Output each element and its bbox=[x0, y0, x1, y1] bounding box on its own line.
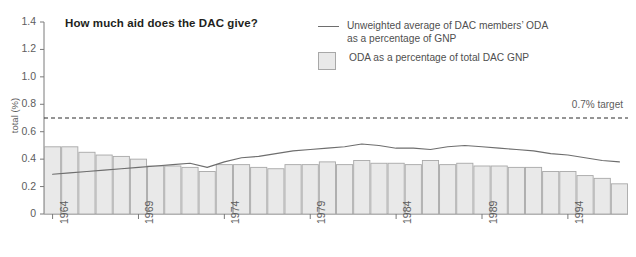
bar bbox=[440, 165, 456, 214]
bar bbox=[113, 156, 129, 214]
x-axis-tick-label: 1979 bbox=[315, 201, 327, 224]
y-axis-tick-label: 0.6 bbox=[8, 125, 36, 137]
bar bbox=[543, 171, 559, 214]
bar bbox=[337, 165, 353, 214]
bar bbox=[165, 166, 181, 214]
y-axis-tick-label: 0.2 bbox=[8, 180, 36, 192]
bar bbox=[79, 152, 95, 214]
bar bbox=[268, 169, 284, 214]
chart-figure: How much aid does the DAC give? total (%… bbox=[0, 0, 636, 257]
y-axis-tick-label: 1.0 bbox=[8, 70, 36, 82]
bar bbox=[508, 167, 524, 214]
x-axis-tick-label: 1969 bbox=[143, 201, 155, 224]
x-axis-tick-label: 1994 bbox=[573, 201, 585, 224]
y-axis-tick-label: 0.4 bbox=[8, 152, 36, 164]
bar bbox=[422, 161, 438, 214]
bar bbox=[251, 167, 267, 214]
bar bbox=[525, 167, 541, 214]
bar bbox=[594, 178, 610, 214]
x-axis-tick-label: 1974 bbox=[229, 201, 241, 224]
bar bbox=[611, 184, 627, 214]
x-axis-tick-label: 1984 bbox=[401, 201, 413, 224]
bar bbox=[199, 171, 215, 214]
bar bbox=[457, 163, 473, 214]
x-axis-tick-label: 1964 bbox=[58, 201, 70, 224]
bar bbox=[182, 167, 198, 214]
bar bbox=[354, 161, 370, 214]
bar bbox=[285, 165, 301, 214]
bar bbox=[96, 155, 112, 214]
y-axis-tick-label: 0.8 bbox=[8, 97, 36, 109]
y-axis-tick-label: 1.4 bbox=[8, 15, 36, 27]
x-axis-tick-label: 1989 bbox=[487, 201, 499, 224]
y-axis-tick-label: 1.2 bbox=[8, 42, 36, 54]
y-axis-tick-label: 0 bbox=[8, 207, 36, 219]
bar bbox=[371, 163, 387, 214]
